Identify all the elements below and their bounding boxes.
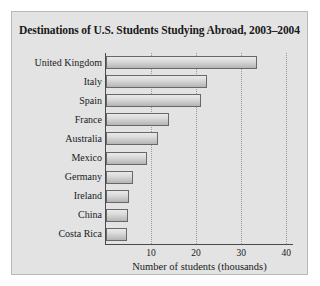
bar-row: Spain bbox=[106, 94, 293, 107]
category-label: United Kingdom bbox=[0, 58, 106, 68]
x-tick-label: 20 bbox=[191, 248, 201, 258]
bar bbox=[106, 209, 128, 222]
figure-canvas: Destinations of U.S. Students Studying A… bbox=[0, 0, 320, 286]
bar bbox=[106, 171, 133, 184]
bar-row: United Kingdom bbox=[106, 56, 293, 69]
bar bbox=[106, 113, 169, 126]
bar-row: Costa Rica bbox=[106, 228, 293, 241]
category-label: Australia bbox=[0, 134, 106, 144]
x-axis-line bbox=[105, 244, 293, 245]
bar bbox=[106, 56, 257, 69]
category-label: Mexico bbox=[0, 153, 106, 163]
bar-row: Ireland bbox=[106, 190, 293, 203]
bar bbox=[106, 75, 207, 88]
bar-row: France bbox=[106, 113, 293, 126]
bar bbox=[106, 190, 129, 203]
x-axis-label: Number of students (thousands) bbox=[106, 261, 293, 272]
bar bbox=[106, 152, 147, 165]
category-label: Spain bbox=[0, 96, 106, 106]
bar-row: China bbox=[106, 209, 293, 222]
x-tick-label: 40 bbox=[281, 248, 291, 258]
bar-row: Germany bbox=[106, 171, 293, 184]
chart-title: Destinations of U.S. Students Studying A… bbox=[12, 24, 307, 36]
category-label: China bbox=[0, 210, 106, 220]
chart-panel: Destinations of U.S. Students Studying A… bbox=[11, 11, 308, 275]
bar bbox=[106, 94, 201, 107]
bar-row: Australia bbox=[106, 132, 293, 145]
x-tick-label: 10 bbox=[146, 248, 156, 258]
category-label: Ireland bbox=[0, 191, 106, 201]
bar bbox=[106, 228, 127, 241]
category-label: France bbox=[0, 115, 106, 125]
category-label: Italy bbox=[0, 77, 106, 87]
bar-row: Italy bbox=[106, 75, 293, 88]
x-tick-label: 30 bbox=[236, 248, 246, 258]
plot-area: United KingdomItalySpainFranceAustraliaM… bbox=[106, 53, 293, 244]
bar bbox=[106, 132, 158, 145]
category-label: Germany bbox=[0, 172, 106, 182]
category-label: Costa Rica bbox=[0, 229, 106, 239]
bar-row: Mexico bbox=[106, 152, 293, 165]
